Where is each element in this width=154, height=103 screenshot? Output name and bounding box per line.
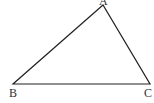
triangle-diagram: A B C — [0, 0, 154, 103]
triangle-abc — [13, 5, 150, 84]
vertex-label-c: C — [144, 86, 152, 100]
vertex-label-a: A — [99, 0, 108, 8]
vertex-label-b: B — [9, 86, 17, 100]
